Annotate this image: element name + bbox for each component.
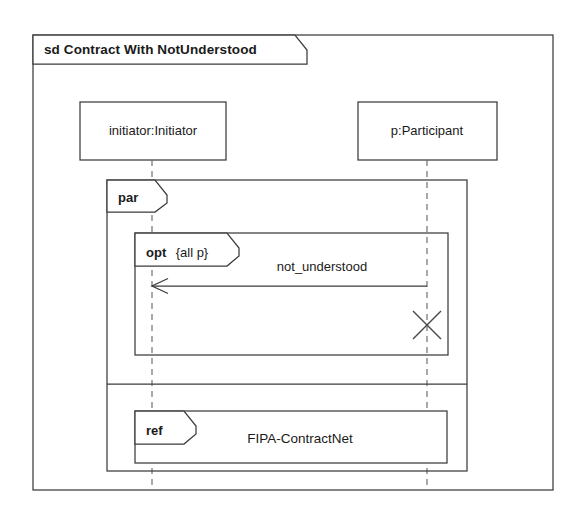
lifeline-label-initiator: initiator:Initiator xyxy=(109,123,198,138)
par-operator-label: par xyxy=(118,190,138,205)
message-label-not-understood: not_understood xyxy=(277,259,367,274)
frame-title-label: sd Contract With NotUnderstood xyxy=(44,42,257,57)
opt-guard-label: {all p} xyxy=(176,245,209,260)
sequence-diagram-canvas: sd Contract With NotUnderstood initiator… xyxy=(0,0,579,515)
ref-label-tab xyxy=(135,411,196,444)
ref-reference-name: FIPA-ContractNet xyxy=(247,431,353,446)
ref-operator-label: ref xyxy=(146,423,163,438)
opt-operator-label: opt xyxy=(146,245,167,260)
opt-label-group: opt {all p} xyxy=(146,243,209,260)
sequence-diagram-svg: sd Contract With NotUnderstood initiator… xyxy=(0,0,579,515)
lifeline-label-participant: p:Participant xyxy=(391,123,464,138)
